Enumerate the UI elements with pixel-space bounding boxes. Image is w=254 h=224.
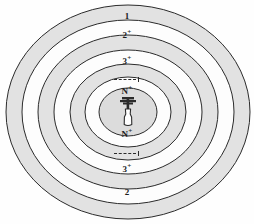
zone-label-2-bottom-text: 2 [125,187,130,197]
zone-label-n-bottom: N+ [0,126,254,139]
zone-label-2-top-sup: + [127,28,131,36]
zone-label-3-top-sup: + [127,54,131,62]
dash-marker-top [0,74,254,80]
zone-label-2-bottom: 2 [0,184,254,197]
zone-label-3-bottom: 3+ [0,161,254,174]
dash-marker-bottom-line [114,153,136,154]
zone-label-3-bottom-sup: + [127,162,131,170]
zone-label-n-top: N+ [0,83,254,96]
zone-label-2-top: 2+ [0,27,254,40]
dash-marker-bottom [0,148,254,154]
dash-marker-top-inner [114,77,140,82]
dash-marker-top-line [114,79,136,80]
transmitter-tower-icon [117,96,139,128]
dash-marker-bottom-tick [138,151,139,156]
zone-label-1-top-text: 1 [125,11,130,21]
zone-label-n-top-sup: + [128,84,132,92]
zone-label-3-top: 3+ [0,53,254,66]
concentric-zone-diagram: 1 2+ 3+ N+ N+ 3+ 2 [0,0,254,224]
zone-label-1-top: 1 [0,8,254,21]
zone-label-n-bottom-sup: + [128,127,132,135]
dash-marker-bottom-inner [114,151,140,156]
dash-marker-top-tick [138,77,139,82]
